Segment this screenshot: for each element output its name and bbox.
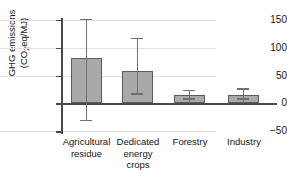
y-axis-title: GHG emissions (CO2eq/MJ) (6, 0, 32, 98)
error-bar-line-dedicated-energy-crops (137, 38, 138, 94)
x-label-line: Industry (227, 136, 261, 147)
error-cap-low-dedicated-energy-crops (131, 93, 143, 94)
y-tick-label-100: 100 (235, 43, 287, 53)
error-cap-high-forestry (183, 90, 195, 91)
x-label-dedicated-energy-crops: Dedicated energy crops (108, 136, 168, 171)
x-label-line: Dedicated (117, 136, 160, 147)
x-label-line: energy (123, 148, 152, 159)
gridline--50 (0, 131, 216, 132)
y-tick--50 (56, 131, 62, 132)
error-cap-high-dedicated-energy-crops (131, 38, 143, 39)
y-tick-label-50: 50 (235, 71, 287, 81)
y-tick-50 (56, 76, 62, 77)
y-tick-100 (56, 48, 62, 49)
chart-figure: GHG emissions (CO2eq/MJ) 150 100 50 0 −5… (0, 0, 287, 186)
x-label-line: residue (71, 148, 102, 159)
y-axis-title-line2: (CO2eq/MJ) (18, 0, 31, 98)
error-cap-high-industry (237, 88, 249, 89)
x-label-industry: Industry (216, 136, 272, 148)
y-tick-label--50: −50 (235, 126, 287, 136)
gridline-50 (0, 76, 216, 77)
gridline-100 (0, 48, 216, 49)
error-bar-line-industry (243, 88, 244, 103)
error-cap-low-agricultural-residue (80, 120, 92, 121)
y-tick-label-150: 150 (235, 15, 287, 25)
error-cap-high-agricultural-residue (80, 19, 92, 20)
y-tick-150 (56, 20, 62, 21)
error-bar-line-forestry (189, 90, 190, 104)
x-label-forestry: Forestry (162, 136, 218, 148)
x-label-line: Agricultural (63, 136, 111, 147)
x-label-line: Forestry (173, 136, 208, 147)
error-bar-line-agricultural-residue (86, 19, 87, 120)
y-axis-title-paren: (CO (18, 51, 29, 68)
y-axis-title-units: eq/MJ) (18, 18, 29, 47)
x-label-line: crops (126, 159, 149, 170)
y-tick-0 (56, 103, 62, 104)
error-cap-low-forestry (183, 98, 195, 99)
gridline-150 (0, 20, 216, 21)
error-cap-low-industry (237, 98, 249, 99)
